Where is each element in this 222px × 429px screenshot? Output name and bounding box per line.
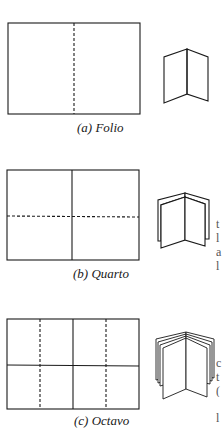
folding-diagram <box>0 0 222 429</box>
quarto-panel <box>7 170 209 260</box>
cropped-text-fragment: l <box>216 232 222 244</box>
cropped-text-fragment: ( <box>216 385 222 397</box>
cropped-text-fragment: t <box>216 371 222 383</box>
cropped-text-fragment: a <box>216 246 222 258</box>
quarto-book-icon <box>158 193 209 248</box>
cropped-text-fragment: c <box>216 357 222 369</box>
quarto-caption: (b) Quarto <box>73 267 129 281</box>
folio-book-icon <box>164 49 208 103</box>
folio-panel <box>8 23 208 114</box>
cropped-text-fragment: t <box>216 218 222 230</box>
octavo-solid-fold-horizontal <box>7 365 139 366</box>
octavo-panel <box>7 319 214 409</box>
octavo-caption: (c) Octavo <box>74 414 129 428</box>
octavo-book-icon <box>156 332 214 399</box>
quarto-dashed-fold <box>7 216 139 217</box>
cropped-text-fragment: l <box>216 412 222 424</box>
folio-caption: (a) Folio <box>77 121 124 135</box>
cropped-text-fragment: l <box>216 260 222 272</box>
quarto-sheet <box>7 170 139 260</box>
